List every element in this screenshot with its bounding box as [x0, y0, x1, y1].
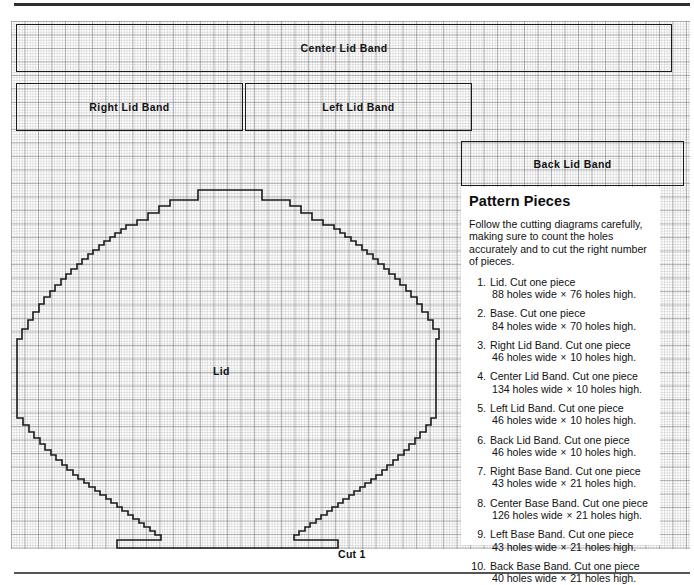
list-item-dims: 134 holes wide × 10 holes high. [490, 383, 656, 396]
list-item: 2. Base. Cut one piece 84 holes wide × 7… [469, 307, 656, 333]
list-item-number: 2. [469, 307, 486, 319]
list-item-number: 7. [469, 465, 486, 477]
top-divider-rule [14, 3, 690, 6]
list-item-name: Left Lid Band. Cut one piece [490, 402, 624, 414]
piece-left-lid-band: Left Lid Band [245, 83, 472, 131]
list-item: 3. Right Lid Band. Cut one piece 46 hole… [469, 339, 656, 365]
lid-piece-label: Lid [213, 365, 230, 377]
list-item: 6. Back Lid Band. Cut one piece 46 holes… [469, 434, 656, 460]
band-label-back-lid: Back Lid Band [533, 158, 611, 170]
list-item-dims: 46 holes wide × 10 holes high. [490, 351, 656, 364]
cut-count-label: Cut 1 [338, 548, 366, 560]
list-item-name: Center Base Band. Cut one piece [490, 497, 648, 509]
list-item-number: 8. [469, 497, 486, 509]
list-item-dims: 46 holes wide × 10 holes high. [490, 446, 656, 459]
list-item: 7. Right Base Band. Cut one piece 43 hol… [469, 465, 656, 491]
panel-heading: Pattern Pieces [469, 193, 656, 209]
pattern-pieces-list: 1. Lid. Cut one piece 88 holes wide × 76… [469, 276, 656, 585]
panel-intro-text: Follow the cutting diagrams carefully, m… [469, 218, 656, 268]
bottom-divider-rule [14, 572, 690, 574]
list-item-number: 3. [469, 339, 486, 351]
list-item-number: 9. [469, 528, 486, 540]
list-item-number: 5. [469, 402, 486, 414]
list-item: 8. Center Base Band. Cut one piece 126 h… [469, 497, 656, 523]
list-item-name: Back Base Band. Cut one piece [490, 560, 640, 572]
piece-center-lid-band: Center Lid Band [16, 24, 672, 72]
list-item-dims: 126 holes wide × 21 holes high. [490, 509, 656, 522]
list-item-name: Center Lid Band. Cut one piece [490, 370, 638, 382]
list-item-number: 6. [469, 434, 486, 446]
piece-back-lid-band: Back Lid Band [461, 141, 684, 186]
list-item-dims: 43 holes wide × 21 holes high. [490, 541, 656, 554]
pattern-sheet-page: Center Lid Band Right Lid Band Left Lid … [0, 0, 694, 585]
band-label-right-lid: Right Lid Band [89, 101, 169, 113]
list-item: 9. Left Base Band. Cut one piece 43 hole… [469, 528, 656, 554]
list-item-name: Left Base Band. Cut one piece [490, 528, 634, 540]
list-item-dims: 88 holes wide × 76 holes high. [490, 288, 656, 301]
list-item-dims: 40 holes wide × 21 holes high. [490, 572, 656, 585]
band-label-center-lid: Center Lid Band [300, 42, 387, 54]
list-item-name: Right Lid Band. Cut one piece [490, 339, 631, 351]
list-item-dims: 84 holes wide × 70 holes high. [490, 320, 656, 333]
list-item-dims: 43 holes wide × 21 holes high. [490, 477, 656, 490]
list-item: 1. Lid. Cut one piece 88 holes wide × 76… [469, 276, 656, 302]
list-item-number: 4. [469, 370, 486, 382]
band-label-left-lid: Left Lid Band [322, 101, 394, 113]
list-item-name: Lid. Cut one piece [490, 276, 575, 288]
list-item-name: Back Lid Band. Cut one piece [490, 434, 630, 446]
piece-right-lid-band: Right Lid Band [16, 83, 243, 131]
list-item-dims: 46 holes wide × 10 holes high. [490, 414, 656, 427]
list-item-number: 10. [469, 560, 486, 572]
list-item-name: Base. Cut one piece [490, 307, 585, 319]
list-item-name: Right Base Band. Cut one piece [490, 465, 641, 477]
list-item-number: 1. [469, 276, 486, 288]
pattern-pieces-panel: Pattern Pieces Follow the cutting diagra… [461, 187, 660, 545]
list-item: 4. Center Lid Band. Cut one piece 134 ho… [469, 370, 656, 396]
list-item: 5. Left Lid Band. Cut one piece 46 holes… [469, 402, 656, 428]
